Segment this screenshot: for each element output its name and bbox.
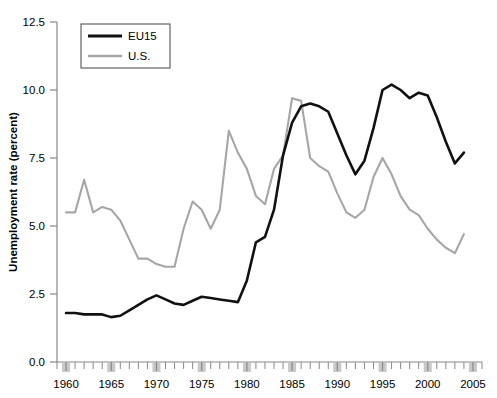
chart-container: 0.02.55.07.510.012.5 1960196519701975198… <box>0 0 497 398</box>
y-tick-label-10.0: 10.0 <box>23 84 45 96</box>
chart-legend: EU15 U.S. <box>81 24 170 68</box>
x-tick-label-2000: 2000 <box>415 378 441 390</box>
y-tick-label-5.0: 5.0 <box>29 220 45 232</box>
data-series-group <box>66 85 464 318</box>
legend-label-eu15: EU15 <box>128 30 157 42</box>
y-tick-label-7.5: 7.5 <box>29 152 45 164</box>
x-tick-label-1990: 1990 <box>325 378 351 390</box>
y-tick-label-12.5: 12.5 <box>23 16 45 28</box>
unemployment-rate-line-chart: 0.02.55.07.510.012.5 1960196519701975198… <box>0 0 497 398</box>
x-axis-recession-bars <box>62 363 477 372</box>
x-tick-label-1965: 1965 <box>98 378 124 390</box>
x-tick-label-2005: 2005 <box>460 378 486 390</box>
x-axis-ticks <box>57 362 482 371</box>
x-tick-label-1985: 1985 <box>279 378 305 390</box>
x-tick-label-1960: 1960 <box>53 378 79 390</box>
series-line-us <box>66 98 464 267</box>
axis-group <box>57 22 482 362</box>
y-axis-ticks: 0.02.55.07.510.012.5 <box>23 16 57 368</box>
legend-label-us: U.S. <box>128 50 150 62</box>
x-tick-label-1975: 1975 <box>189 378 215 390</box>
x-tick-label-1980: 1980 <box>234 378 260 390</box>
y-tick-label-2.5: 2.5 <box>29 288 45 300</box>
y-axis-title: Unemployment rate (percent) <box>7 112 19 272</box>
x-tick-label-1995: 1995 <box>370 378 396 390</box>
y-tick-label-0.0: 0.0 <box>29 356 45 368</box>
x-tick-label-1970: 1970 <box>144 378 170 390</box>
x-axis-tick-labels: 1960196519701975198019851990199520002005 <box>53 378 486 390</box>
